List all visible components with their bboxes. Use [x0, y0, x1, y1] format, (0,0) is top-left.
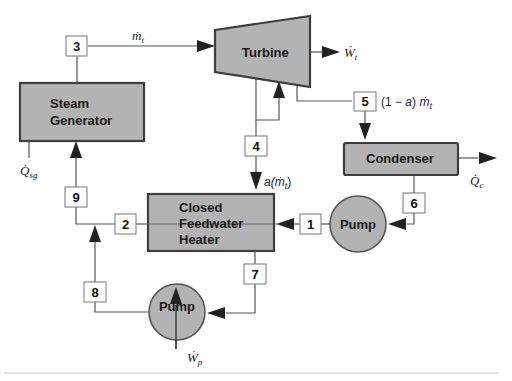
- svg-text:1: 1: [307, 217, 314, 232]
- svg-text:5: 5: [361, 94, 368, 109]
- flow-line-7: [207, 252, 255, 319]
- svg-text:3: 3: [73, 39, 80, 54]
- svg-text:6: 6: [410, 196, 417, 211]
- state-8: 8: [84, 282, 106, 302]
- heater-label-line1: Closed: [179, 200, 222, 215]
- state-3: 3: [66, 36, 87, 56]
- state-6: 6: [403, 193, 425, 213]
- drain-pump: Pump: [149, 284, 205, 349]
- svg-text:4: 4: [252, 139, 260, 154]
- rankine-cycle-diagram: Turbine Steam Generator Condenser Closed…: [0, 0, 512, 381]
- state-2: 2: [115, 214, 136, 234]
- steam-generator-label-line2: Generator: [50, 113, 112, 128]
- condenser-label: Condenser: [366, 151, 434, 166]
- svg-text:8: 8: [91, 285, 98, 300]
- exhaust-flow-label: (1 − a) ṁt: [381, 95, 432, 111]
- flow-line-4: [250, 79, 285, 190]
- svg-text:2: 2: [122, 217, 129, 232]
- extraction-flow-label: a(ṁt): [264, 175, 291, 191]
- heater-label-line2: Feedwater: [179, 216, 243, 231]
- svg-text:9: 9: [72, 190, 79, 205]
- steam-generator: Steam Generator: [20, 83, 144, 141]
- condenser-heat-label: Q̇c: [470, 173, 483, 190]
- svg-text:7: 7: [251, 267, 258, 282]
- condensate-pump: Pump: [330, 196, 386, 252]
- state-4: 4: [245, 136, 267, 156]
- turbine: Turbine: [215, 16, 310, 87]
- steam-generator-label-line1: Steam: [50, 96, 89, 111]
- state-9: 9: [65, 187, 87, 207]
- closed-feedwater-heater: Closed Feedwater Heater: [148, 194, 274, 251]
- condensate-pump-label: Pump: [340, 217, 376, 232]
- turbine-label: Turbine: [242, 45, 289, 60]
- state-7: 7: [244, 264, 266, 284]
- flow-line-3: [77, 40, 215, 83]
- turbine-work-label: Ẇt: [344, 45, 358, 62]
- flow-line-2-9: [70, 141, 146, 224]
- state-5: 5: [354, 92, 376, 111]
- sg-heat-label: Q̇sg: [20, 163, 38, 180]
- mass-flow-turbine-label: ṁt: [132, 28, 144, 45]
- condenser: Condenser: [344, 143, 458, 175]
- pump-work-label: Ẇp: [187, 350, 203, 367]
- state-1: 1: [300, 214, 321, 234]
- heater-label-line3: Heater: [179, 232, 219, 247]
